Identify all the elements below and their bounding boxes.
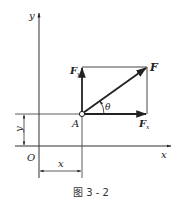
force-resultant-arrow — [83, 68, 146, 113]
force-resultant-label: F — [149, 61, 159, 74]
y-dimension-label: y — [13, 126, 24, 133]
angle-arc — [100, 101, 104, 114]
x-dimension-label: x — [58, 158, 64, 169]
figure-caption: 图 3 - 2 — [73, 187, 109, 198]
force-x-label: Fx — [138, 118, 150, 130]
origin-label: O — [27, 152, 35, 163]
angle-theta-label: θ — [105, 102, 111, 112]
point-a-label: A — [71, 118, 79, 129]
point-a-marker — [79, 111, 84, 116]
force-y-label: Fy — [69, 65, 81, 78]
y-axis-label: y — [28, 10, 35, 21]
x-axis-label: x — [161, 149, 167, 160]
force-decomposition-diagram: y x O A F Fy Fx θ y x 图 3 - 2 — [0, 0, 182, 211]
